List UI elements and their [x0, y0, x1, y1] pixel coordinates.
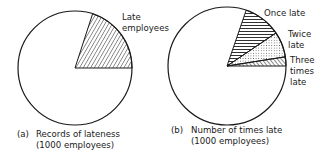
pie-b-caption-line1: Number of times late: [191, 125, 282, 135]
pie-a-label-late-line1: Late: [122, 12, 141, 22]
pie-a-caption-letter: (a): [17, 129, 29, 139]
pie-b-label-twice-line2: late: [288, 40, 304, 50]
pie-b-label-three-line1: Three: [289, 55, 315, 65]
pie-b-label-three-line3: late: [290, 77, 306, 87]
pie-b-label-once: Once late: [264, 8, 305, 18]
pie-b-label-twice-line1: Twice: [287, 29, 311, 39]
pie-charts-figure: Late employees (a) Records of lateness (…: [0, 0, 328, 168]
pie-a-caption-line1: Records of lateness: [36, 129, 120, 139]
pie-a-caption-line2: (1000 employees): [36, 140, 114, 150]
pie-chart-b: Once late Twice late Three times late (b…: [168, 7, 315, 146]
pie-b-label-three-line2: times: [290, 66, 314, 76]
pie-a-label-late-line2: employees: [122, 23, 169, 33]
pie-chart-a: Late employees (a) Records of lateness (…: [17, 11, 169, 150]
pie-b-caption-line2: (1000 employees): [191, 136, 269, 146]
pie-b-caption-letter: (b): [171, 125, 183, 135]
